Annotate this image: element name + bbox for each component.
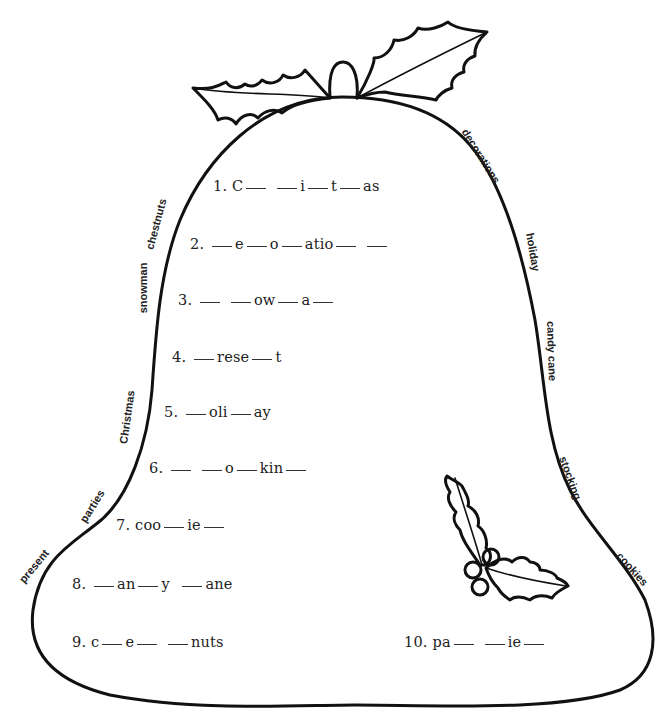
blank [171,470,191,471]
blank [182,586,202,587]
puzzle-2: 2. eoatio [190,236,390,252]
blank [336,246,356,247]
blank [313,302,333,303]
blank [246,188,266,189]
holly-leaf-top-left [193,70,330,124]
blank [524,644,544,645]
puzzle-4: 4. reset [172,349,281,365]
puzzle-3: 3. owa [178,292,336,308]
blank [186,414,206,415]
puzzle-8: 8. any ane [72,576,233,592]
blank [282,246,302,247]
blank [278,302,298,303]
blank [231,302,251,303]
blank [194,359,214,360]
holly-berry [465,562,481,578]
puzzle-10: 10. pa ie [404,634,547,650]
blank [277,188,297,189]
blank [164,527,184,528]
puzzle-1: 1. C itas [213,178,380,194]
blank [204,527,224,528]
blank [231,414,251,415]
blank [102,644,122,645]
blank [237,470,257,471]
blank [367,246,387,247]
blank [202,470,222,471]
blank [340,188,360,189]
holly-berry [472,579,488,595]
word-snowman: snowman [137,263,149,314]
puzzle-5: 5. oliay [164,404,271,420]
blank [138,586,158,587]
blank [252,359,272,360]
bell-outline-drawing [0,0,669,727]
puzzle-9: 9. ce nuts [72,634,224,650]
bell-knob [330,62,358,98]
blank [168,644,188,645]
blank [200,302,220,303]
blank [454,644,474,645]
puzzle-7: 7. cooie [116,517,227,533]
blank [485,644,505,645]
puzzle-6: 6. okin [149,460,309,476]
blank [247,246,267,247]
blank [212,246,232,247]
word-candy-cane: candy cane [545,321,559,381]
blank [137,644,157,645]
blank [286,470,306,471]
blank [308,188,328,189]
blank [94,586,114,587]
